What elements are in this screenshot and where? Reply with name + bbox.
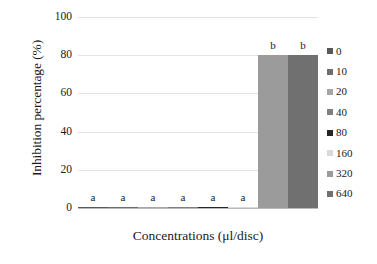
axis-baseline bbox=[78, 208, 318, 209]
legend-swatch-icon bbox=[327, 150, 333, 156]
significance-letter: a bbox=[108, 192, 138, 203]
bar[interactable] bbox=[138, 207, 168, 208]
legend-item[interactable]: 160 bbox=[327, 143, 377, 163]
legend-swatch-icon bbox=[327, 69, 333, 75]
significance-letter: a bbox=[168, 192, 198, 203]
legend-swatch-icon bbox=[327, 191, 333, 197]
legend-item[interactable]: 10 bbox=[327, 61, 377, 81]
bar-slot[interactable]: a bbox=[78, 17, 108, 208]
bar-slot[interactable]: a bbox=[198, 17, 228, 208]
legend-label: 40 bbox=[336, 107, 347, 118]
bar[interactable] bbox=[168, 207, 198, 208]
significance-letter: b bbox=[258, 40, 288, 51]
y-tick-label: 80 bbox=[38, 49, 72, 61]
legend-label: 10 bbox=[336, 66, 347, 77]
legend-item[interactable]: 20 bbox=[327, 82, 377, 102]
bar-slot[interactable]: a bbox=[138, 17, 168, 208]
y-tick-label: 0 bbox=[38, 202, 72, 214]
bar[interactable] bbox=[228, 207, 258, 208]
bar-slot[interactable]: b bbox=[288, 17, 318, 208]
plot-area: aaaaaabb bbox=[78, 17, 318, 208]
bar[interactable] bbox=[78, 207, 108, 208]
bar-slot[interactable]: a bbox=[108, 17, 138, 208]
legend-swatch-icon bbox=[327, 89, 333, 95]
legend-swatch-icon bbox=[327, 48, 333, 54]
chart-figure: Inhibition percentage (%) 020406080100 a… bbox=[0, 0, 377, 264]
legend-item[interactable]: 80 bbox=[327, 123, 377, 143]
significance-letter: a bbox=[198, 192, 228, 203]
legend-label: 20 bbox=[336, 86, 347, 97]
legend-item[interactable]: 320 bbox=[327, 163, 377, 183]
legend-swatch-icon bbox=[327, 171, 333, 177]
bar-slot[interactable]: a bbox=[228, 17, 258, 208]
legend-swatch-icon bbox=[327, 109, 333, 115]
legend-item[interactable]: 0 bbox=[327, 41, 377, 61]
bar-series: aaaaaabb bbox=[78, 17, 318, 208]
bar[interactable] bbox=[288, 55, 318, 208]
y-tick-label: 60 bbox=[38, 88, 72, 100]
legend-label: 80 bbox=[336, 127, 347, 138]
y-tick-label: 40 bbox=[38, 126, 72, 138]
y-axis-tick-labels: 020406080100 bbox=[36, 0, 72, 264]
legend-label: 640 bbox=[336, 188, 353, 199]
legend-label: 0 bbox=[336, 46, 342, 57]
legend-swatch-icon bbox=[327, 130, 333, 136]
significance-letter: b bbox=[288, 40, 318, 51]
y-tick-label: 20 bbox=[38, 164, 72, 176]
legend-item[interactable]: 640 bbox=[327, 184, 377, 204]
significance-letter: a bbox=[228, 192, 258, 203]
y-tick-label: 100 bbox=[38, 11, 72, 23]
legend-item[interactable]: 40 bbox=[327, 102, 377, 122]
significance-letter: a bbox=[138, 192, 168, 203]
bar[interactable] bbox=[258, 55, 288, 208]
legend-label: 320 bbox=[336, 168, 353, 179]
bar-slot[interactable]: b bbox=[258, 17, 288, 208]
x-axis-title: Concentrations (μl/disc) bbox=[78, 228, 318, 244]
legend: 010204080160320640 bbox=[327, 41, 377, 204]
significance-letter: a bbox=[78, 192, 108, 203]
bar[interactable] bbox=[108, 207, 138, 208]
legend-label: 160 bbox=[336, 148, 353, 159]
bar[interactable] bbox=[198, 207, 228, 208]
bar-slot[interactable]: a bbox=[168, 17, 198, 208]
